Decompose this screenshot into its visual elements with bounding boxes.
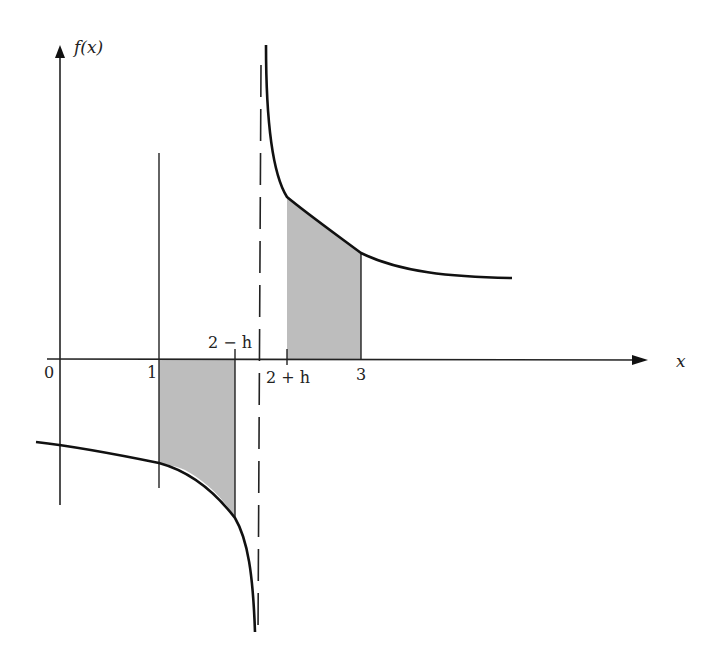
improper-integral-diagram: f(x) x 0 1 2 − h 2 + h 3 [0, 0, 716, 669]
asymptote-x-2 [258, 65, 261, 634]
x-axis [47, 359, 640, 360]
tick-label-3: 3 [356, 365, 366, 384]
tick-label-2-plus-h: 2 + h [266, 368, 310, 387]
y-axis-label: f(x) [72, 37, 103, 57]
tick-label-1: 1 [147, 363, 157, 382]
shaded-region-right [287, 197, 361, 359]
tick-label-0: 0 [44, 363, 54, 382]
shaded-region-left [159, 359, 235, 518]
tick-label-2-minus-h: 2 − h [208, 333, 252, 352]
x-axis-label: x [676, 351, 686, 371]
x-axis-arrow-icon [632, 355, 648, 365]
y-axis-arrow-icon [55, 45, 65, 58]
